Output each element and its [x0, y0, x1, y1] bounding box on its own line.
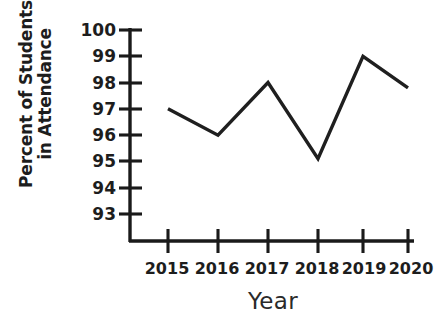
y-tick-label-95: 95: [92, 151, 116, 171]
y-tick-label-99: 99: [92, 46, 116, 66]
y-tick-label-96: 96: [92, 125, 116, 145]
attendance-line-chart: Percent of Students in Attendance 100 99…: [0, 0, 446, 329]
x-axis-title-wrap: Year: [0, 288, 446, 314]
x-axis-title: Year: [148, 288, 298, 314]
y-tick-label-94: 94: [92, 178, 116, 198]
x-tick-label-2018: 2018: [295, 259, 340, 278]
x-tick-label-2019: 2019: [342, 259, 387, 278]
x-tick-label-2017: 2017: [245, 259, 290, 278]
attendance-series-line: [168, 56, 408, 159]
chart-canvas: 100 99 98 97 96 95 94 93 2015 2016 2017 …: [0, 0, 446, 329]
x-tick-label-2016: 2016: [195, 259, 240, 278]
y-tick-label-93: 93: [92, 204, 116, 224]
y-axis: 100 99 98 97 96 95 94 93: [81, 20, 143, 242]
y-tick-label-97: 97: [92, 99, 116, 119]
x-axis: 2015 2016 2017 2018 2019 2020: [129, 229, 433, 278]
y-tick-label-98: 98: [92, 73, 116, 93]
y-tick-label-100: 100: [81, 20, 117, 40]
x-tick-label-2015: 2015: [145, 259, 190, 278]
x-tick-label-2020: 2020: [389, 259, 434, 278]
